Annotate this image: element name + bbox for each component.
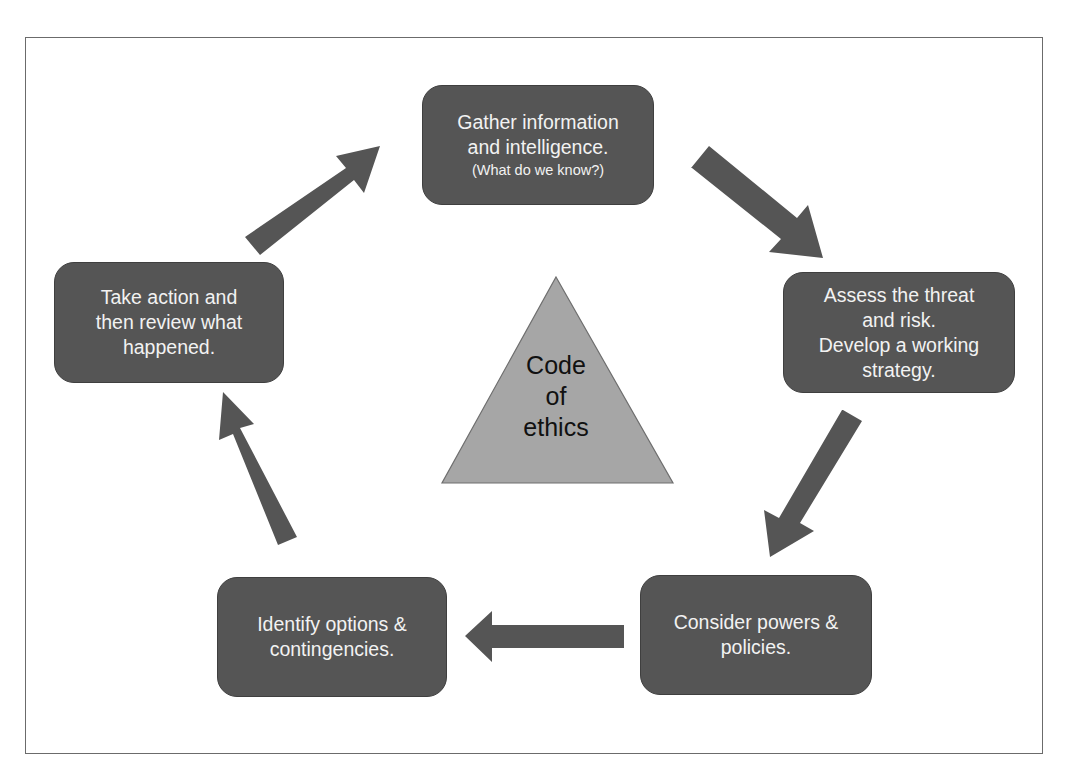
step-gather-information: Gather information and intelligence. (Wh… <box>422 85 654 205</box>
step-assess-line-2: and risk. <box>862 308 936 333</box>
step-assess-line-1: Assess the threat <box>824 283 975 308</box>
center-line-3: ethics <box>496 412 616 443</box>
step-gather-line-2: and intelligence. <box>468 135 609 160</box>
step-consider-line-2: policies. <box>721 635 791 660</box>
step-take-action: Take action and then review what happene… <box>54 262 284 383</box>
step-assess-threat: Assess the threat and risk. Develop a wo… <box>783 272 1015 393</box>
arrow-assess-to-consider-icon <box>764 410 862 557</box>
step-identify-line-1: Identify options & <box>257 612 407 637</box>
step-assess-line-4: strategy. <box>862 358 935 383</box>
arrow-action-to-gather-icon <box>245 146 380 255</box>
step-gather-line-1: Gather information <box>457 110 619 135</box>
code-of-ethics-label: Code of ethics <box>496 350 616 443</box>
arrow-consider-to-identify-icon <box>465 611 624 662</box>
arrow-gather-to-assess-icon <box>691 146 823 258</box>
step-consider-powers: Consider powers & policies. <box>640 575 872 695</box>
step-consider-line-1: Consider powers & <box>674 610 839 635</box>
step-action-line-1: Take action and <box>101 285 238 310</box>
step-identify-options: Identify options & contingencies. <box>217 577 447 697</box>
step-action-line-2: then review what <box>96 310 242 335</box>
center-line-1: Code <box>496 350 616 381</box>
step-action-line-3: happened. <box>123 335 215 360</box>
step-gather-subtext: (What do we know?) <box>472 160 604 180</box>
step-assess-line-3: Develop a working <box>819 333 979 358</box>
step-identify-line-2: contingencies. <box>270 637 395 662</box>
center-line-2: of <box>496 381 616 412</box>
arrow-identify-to-action-icon <box>219 392 297 545</box>
